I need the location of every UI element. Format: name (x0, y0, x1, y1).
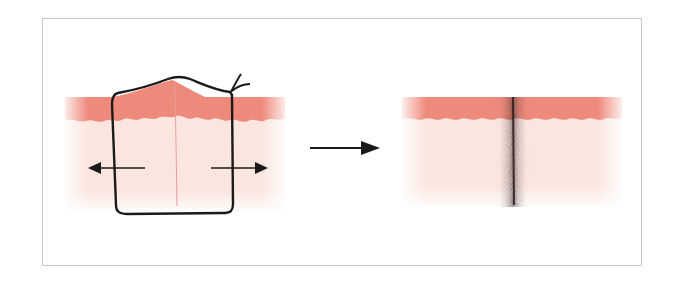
suture-knot-icon (231, 74, 241, 92)
wound-healing-diagram (0, 0, 680, 287)
transition-arrow-icon (310, 141, 380, 155)
scar-line (513, 97, 514, 205)
sutured-wound-panel (60, 74, 290, 215)
healed-scar-panel (398, 90, 628, 210)
